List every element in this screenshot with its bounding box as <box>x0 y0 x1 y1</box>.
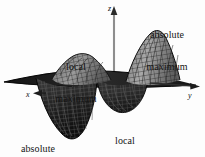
surface-plot-figure: absolute maximum local maximum absolute … <box>0 0 205 157</box>
annotation-local-maximum-line2: maximum <box>41 94 111 105</box>
annotation-absolute-minimum: absolute minimum <box>2 122 74 157</box>
axis-label-z: z <box>108 4 111 13</box>
annotation-absolute-minimum-line1: absolute <box>2 144 74 155</box>
axis-label-y: y <box>188 91 192 100</box>
annotation-absolute-maximum-line1: absolute <box>131 30 203 41</box>
annotation-absolute-maximum: absolute maximum <box>131 8 203 94</box>
annotation-absolute-maximum-line2: maximum <box>131 62 203 73</box>
annotation-local-minimum-line1: local <box>92 136 158 147</box>
axis-label-x: x <box>26 90 30 99</box>
z-axis <box>111 6 118 80</box>
annotation-local-maximum-line1: local <box>41 62 111 73</box>
annotation-local-minimum: local minimum <box>92 114 158 157</box>
